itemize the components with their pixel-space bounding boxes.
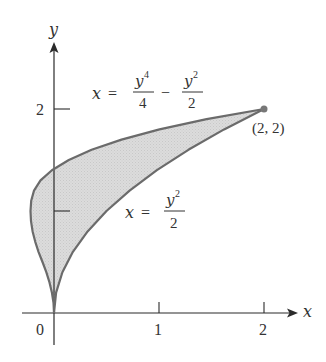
y-axis-label: y (48, 20, 59, 39)
svg-text:2: 2 (175, 188, 180, 199)
intersection-label: (2, 2) (252, 120, 285, 137)
x-axis-label: x (303, 302, 312, 321)
origin-label: 0 (36, 321, 44, 338)
svg-text:2: 2 (170, 215, 178, 231)
svg-text:2: 2 (188, 95, 196, 111)
region-between-curves-diagram: (2, 2) y x 0 1 2 2 x = y 4 4 − y 2 2 x =… (0, 0, 326, 362)
y-tick-label-2: 2 (36, 101, 44, 118)
svg-text:−: − (161, 84, 170, 101)
left-curve-equation: x = y 4 4 − y 2 2 (92, 69, 203, 111)
x-tick-label-1: 1 (154, 321, 162, 338)
intersection-point (261, 106, 268, 113)
svg-text:y: y (134, 72, 144, 90)
svg-text:x: x (92, 84, 101, 103)
svg-text:4: 4 (144, 69, 149, 80)
svg-text:=: = (141, 204, 150, 221)
x-tick-label-2: 2 (259, 321, 267, 338)
svg-text:y: y (165, 191, 175, 209)
svg-text:x: x (125, 203, 134, 222)
svg-text:y: y (183, 72, 193, 90)
svg-text:2: 2 (193, 69, 198, 80)
right-curve-equation: x = y 2 2 (125, 188, 185, 231)
svg-text:4: 4 (139, 95, 147, 111)
svg-text:=: = (108, 85, 117, 102)
